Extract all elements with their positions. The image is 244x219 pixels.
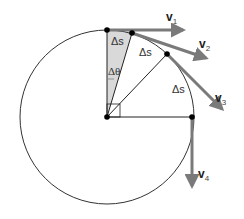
label-v1: v1 bbox=[166, 10, 178, 26]
point-3 bbox=[164, 51, 170, 57]
point-4 bbox=[189, 114, 195, 120]
label-delta-theta: Δθ bbox=[108, 65, 120, 77]
point-1 bbox=[104, 27, 110, 33]
circular-motion-diagram: v1 v2 v3 v4 Δs Δs Δs Δθ bbox=[0, 0, 244, 219]
label-delta-s-2: Δs bbox=[139, 46, 152, 58]
point-2 bbox=[129, 30, 135, 36]
label-delta-s-3: Δs bbox=[172, 83, 185, 95]
vector-v3-arrow bbox=[167, 54, 222, 109]
label-v3: v3 bbox=[215, 91, 227, 107]
label-v2: v2 bbox=[199, 37, 211, 53]
label-v4: v4 bbox=[198, 167, 210, 183]
label-delta-s-1: Δs bbox=[111, 35, 124, 47]
center-point bbox=[104, 114, 110, 120]
